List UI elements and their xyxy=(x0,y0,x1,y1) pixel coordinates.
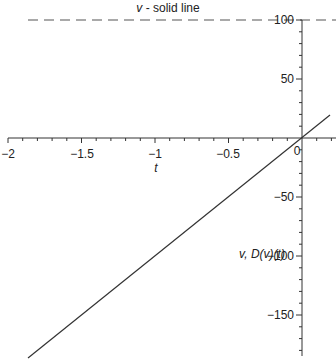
x-tick-label: −2 xyxy=(1,147,15,161)
x-tick-label: −1 xyxy=(148,147,162,161)
y-tick-label: −150 xyxy=(267,308,294,322)
x-tick-label: −0.5 xyxy=(216,147,240,161)
y-tick-label: 100 xyxy=(274,13,294,27)
x-axis-label: t xyxy=(154,161,158,175)
y-tick-label: 50 xyxy=(281,72,295,86)
y-tick-label: −50 xyxy=(274,190,295,204)
x-tick-label: −1.5 xyxy=(70,147,94,161)
chart: −2 −1.5 −1 −0.5 0 t 100 xyxy=(0,0,336,360)
chart-title: v - solid line xyxy=(136,1,200,15)
y-axis-label: v, D(v)(t) xyxy=(239,247,285,261)
x-axis-ticks xyxy=(8,138,331,143)
y-axis-ticks xyxy=(296,20,302,350)
x-tick-label: 0 xyxy=(294,144,301,158)
chart-title-rest: - solid line xyxy=(142,1,200,15)
